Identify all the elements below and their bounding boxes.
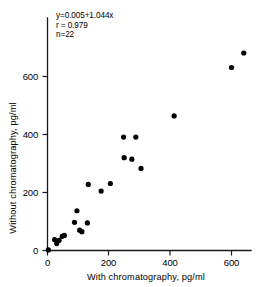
data-point	[62, 233, 67, 238]
y-tick-labels: 0 200 400 600	[23, 71, 38, 256]
data-point	[241, 50, 246, 55]
annotation-correlation: r = 0.979	[56, 21, 88, 30]
x-axis-title: With chromatography, pg/ml	[87, 272, 205, 282]
y-tick-label-200: 200	[23, 187, 38, 198]
x-axis-ticks	[48, 251, 232, 256]
data-point	[99, 188, 104, 193]
data-point	[108, 181, 113, 186]
data-point	[86, 182, 91, 187]
data-point	[229, 65, 234, 70]
y-tick-label-600: 600	[23, 71, 38, 82]
annotation-equation: y=0.005+1.044x	[56, 11, 113, 20]
data-point	[138, 166, 143, 171]
y-tick-label-0: 0	[33, 245, 38, 256]
plot-canvas: 0 200 400 600 0 200 400 600 With chromat…	[0, 0, 257, 287]
data-point	[121, 135, 126, 140]
data-point	[74, 208, 79, 213]
data-points-group	[46, 50, 247, 252]
annotation-sample-size: n=22	[56, 30, 75, 39]
y-axis-title: Without chromatography, pg/ml	[8, 102, 18, 233]
scatter-plot-figure: 0 200 400 600 0 200 400 600 With chromat…	[0, 0, 257, 287]
y-axis-ticks	[43, 77, 48, 251]
data-point	[72, 220, 77, 225]
data-point	[122, 155, 127, 160]
x-tick-label-200: 200	[101, 257, 116, 268]
y-tick-label-400: 400	[23, 129, 38, 140]
x-tick-label-600: 600	[224, 257, 239, 268]
data-point	[46, 247, 51, 252]
data-point	[79, 229, 84, 234]
x-tick-label-400: 400	[162, 257, 177, 268]
regression-annotation: y=0.005+1.044x r = 0.979 n=22	[56, 11, 113, 39]
data-point	[129, 157, 134, 162]
data-point	[85, 220, 90, 225]
x-tick-label-0: 0	[45, 257, 50, 268]
data-point	[172, 113, 177, 118]
x-tick-labels: 0 200 400 600	[45, 257, 239, 268]
data-point	[133, 135, 138, 140]
